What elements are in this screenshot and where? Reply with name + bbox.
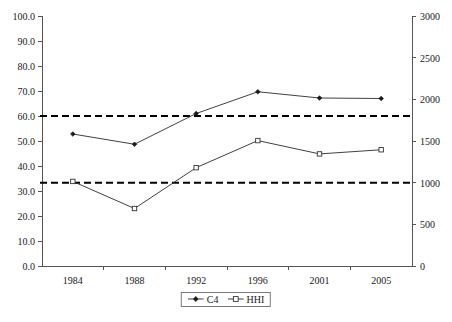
legend-marker-filled-diamond-icon	[188, 294, 204, 304]
chart-axes	[38, 16, 416, 270]
y-axis-left-tick-label: 90.0	[0, 36, 35, 47]
x-axis-tick-label: 1984	[63, 275, 83, 286]
x-axis-tick-label: 1992	[186, 275, 206, 286]
data-point-c4-2001	[317, 96, 322, 101]
y-axis-right-tick-label: 500	[420, 219, 435, 230]
y-axis-left-tick-label: 50.0	[0, 136, 35, 147]
chart-series	[71, 89, 384, 210]
x-axis-tick-label: 1996	[248, 275, 268, 286]
y-axis-right-tick-label: 3000	[420, 11, 440, 22]
data-point-hhi-2001	[317, 152, 321, 156]
y-axis-right-tick-label: 1000	[420, 177, 440, 188]
x-axis-tick-label: 1988	[125, 275, 145, 286]
data-point-hhi-1996	[256, 138, 260, 142]
legend-item-c4[interactable]: C4	[188, 294, 219, 305]
data-point-hhi-1984	[71, 179, 75, 183]
x-axis-tick-label: 2005	[371, 275, 391, 286]
legend-label: HHI	[246, 294, 264, 305]
chart-canvas	[0, 0, 452, 322]
chart-legend: C4HHI	[181, 292, 271, 307]
y-axis-left-tick-label: 40.0	[0, 161, 35, 172]
legend-marker-open-square-icon	[227, 294, 243, 304]
data-point-c4-1988	[132, 142, 137, 147]
y-axis-left-tick-label: 10.0	[0, 236, 35, 247]
y-axis-left-tick-label: 80.0	[0, 61, 35, 72]
data-point-c4-1996	[256, 89, 261, 94]
y-axis-right-tick-label: 2000	[420, 94, 440, 105]
data-point-hhi-1988	[132, 206, 136, 210]
data-point-hhi-2005	[379, 148, 383, 152]
legend-item-hhi[interactable]: HHI	[227, 294, 264, 305]
data-point-c4-2005	[379, 96, 384, 101]
y-axis-left-tick-label: 20.0	[0, 211, 35, 222]
y-axis-left-tick-label: 100.0	[0, 11, 35, 22]
y-axis-left-tick-label: 0.0	[0, 261, 35, 272]
legend-label: C4	[207, 294, 219, 305]
y-axis-left-tick-label: 30.0	[0, 186, 35, 197]
data-point-c4-1984	[71, 132, 76, 137]
y-axis-left-tick-label: 70.0	[0, 86, 35, 97]
data-point-hhi-1992	[194, 165, 198, 169]
chart-reference-lines	[40, 116, 412, 183]
series-line-c4	[73, 92, 381, 145]
y-axis-right-tick-label: 2500	[420, 52, 440, 63]
y-axis-left-tick-label: 60.0	[0, 111, 35, 122]
series-line-hhi	[73, 141, 381, 209]
y-axis-right-tick-label: 1500	[420, 136, 440, 147]
chart-container: 0.010.020.030.040.050.060.070.080.090.01…	[0, 0, 452, 322]
x-axis-tick-label: 2001	[310, 275, 330, 286]
y-axis-right-tick-label: 0	[420, 261, 425, 272]
